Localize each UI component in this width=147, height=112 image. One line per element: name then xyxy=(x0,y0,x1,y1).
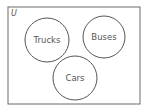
universal-set-box xyxy=(8,7,140,104)
set-label-buses: Buses xyxy=(91,32,117,42)
universal-set-label: U xyxy=(11,9,17,18)
set-label-trucks: Trucks xyxy=(33,35,61,45)
set-label-cars: Cars xyxy=(65,73,85,83)
venn-diagram: U Trucks Buses Cars xyxy=(0,0,147,112)
